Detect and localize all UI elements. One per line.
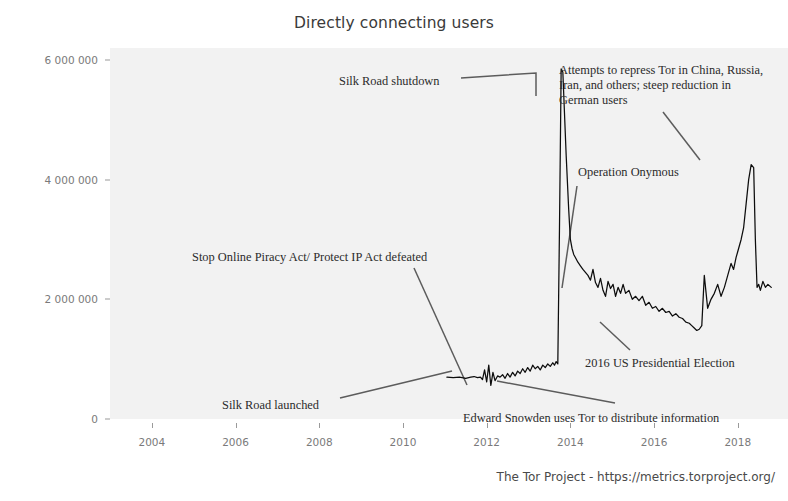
x-axis-tick-label: 2010 — [390, 436, 417, 448]
x-axis-tick-mark — [319, 423, 320, 428]
chart-title: Directly connecting users — [0, 14, 788, 32]
annotation-operation-onymous: Operation Onymous — [578, 165, 679, 180]
x-axis-tick-mark — [738, 423, 739, 428]
x-axis-tick-label: 2018 — [724, 436, 751, 448]
y-axis-tick-mark — [105, 179, 110, 180]
x-axis-tick-label: 2012 — [473, 436, 500, 448]
x-axis-tick-label: 2008 — [306, 436, 333, 448]
x-axis-tick-label: 2014 — [557, 436, 584, 448]
x-axis-tick-mark — [403, 423, 404, 428]
y-axis-tick-mark — [105, 419, 110, 420]
x-axis-tick-label: 2016 — [641, 436, 668, 448]
annotation-silk-road-launched: Silk Road launched — [222, 398, 319, 413]
annotation-edward-snowden: Edward Snowden uses Tor to distribute in… — [463, 411, 719, 426]
annotation-repression-attempts: Attempts to repress Tor in China, Russia… — [559, 63, 788, 108]
x-axis-tick-mark — [152, 423, 153, 428]
y-axis-tick-label: 0 — [18, 413, 98, 425]
annotation-sopa-pipa-defeated: Stop Online Piracy Act/ Protect IP Act d… — [192, 250, 427, 265]
y-axis-tick-label: 4 000 000 — [18, 174, 98, 186]
y-axis-tick-mark — [105, 299, 110, 300]
tor-metrics-chart-figure: Directly connecting users 02 000 0004 00… — [0, 0, 788, 501]
y-axis-tick-label: 2 000 000 — [18, 293, 98, 305]
source-caption: The Tor Project - https://metrics.torpro… — [0, 470, 775, 484]
annotation-2016-us-presidential-election: 2016 US Presidential Election — [585, 356, 735, 371]
x-axis-tick-label: 2004 — [138, 436, 165, 448]
y-axis-tick-mark — [105, 59, 110, 60]
x-axis-tick-mark — [236, 423, 237, 428]
x-axis-tick-label: 2006 — [222, 436, 249, 448]
annotation-silk-road-shutdown: Silk Road shutdown — [339, 74, 440, 89]
y-axis-tick-label: 6 000 000 — [18, 54, 98, 66]
